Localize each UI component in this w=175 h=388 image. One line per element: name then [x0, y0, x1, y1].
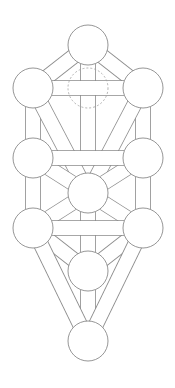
tree-of-life-svg — [0, 0, 175, 388]
sephirah-chokmah — [123, 68, 163, 108]
sephirah-tiphareth — [68, 173, 108, 213]
sephirah-binah — [13, 68, 53, 108]
sephirah-geburah — [13, 138, 53, 178]
sephirah-netzach — [123, 208, 163, 248]
sephirah-yesod — [68, 251, 108, 291]
sephirah-malkuth — [68, 321, 108, 361]
sephirah-hod — [13, 208, 53, 248]
tree-of-life-diagram: Tree of Life — [0, 0, 175, 388]
sephirah-chesed — [123, 138, 163, 178]
sephirah-kether — [68, 25, 108, 65]
